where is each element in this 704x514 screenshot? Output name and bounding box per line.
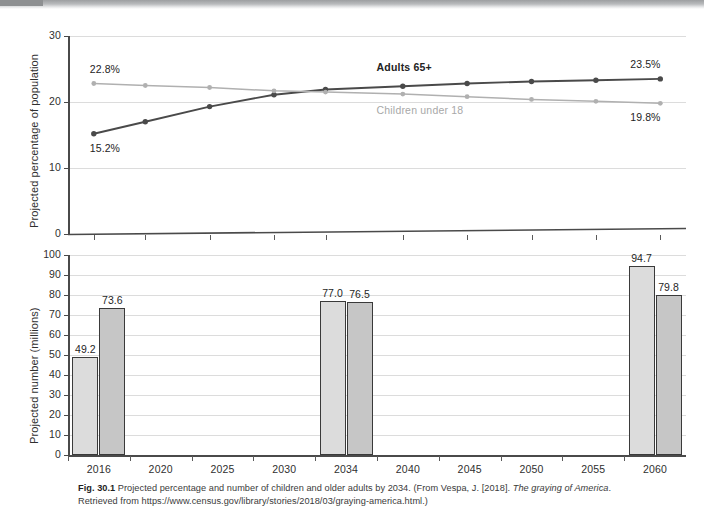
percentage-chart-data-point [272, 88, 277, 93]
number-chart-gridline [68, 435, 686, 436]
number-chart-x-tick-label: 2040 [378, 463, 438, 475]
percentage-chart-value-label: 19.8% [630, 111, 660, 123]
number-chart-bar-value-label: 49.2 [67, 343, 103, 355]
number-chart-x-tick-label: 2034 [316, 463, 376, 475]
percentage-chart-data-point [323, 90, 328, 95]
percentage-chart-series-label-adults: Adults 65+ [377, 61, 432, 73]
percentage-chart-value-label: 22.8% [90, 63, 120, 75]
number-chart-gridline [68, 375, 686, 376]
number-chart-gridline [68, 355, 686, 356]
figure-caption-source-title: The graying of America [513, 483, 609, 493]
number-chart-x-tick-mark [439, 456, 440, 461]
number-chart-gridline [68, 415, 686, 416]
number-chart-x-tick-mark [315, 456, 316, 461]
number-chart-x-tick-label: 2060 [625, 463, 685, 475]
percentage-chart-data-point [143, 119, 148, 124]
percentage-chart-data-point [91, 131, 96, 136]
number-chart-bar-value-label: 94.7 [624, 252, 660, 264]
number-chart-y-tick-label: 40 [28, 368, 61, 380]
number-chart-x-tick-mark [562, 456, 563, 461]
number-chart-x-tick-mark [130, 456, 131, 461]
figure-caption: Fig. 30.1 Projected percentage and numbe… [78, 482, 634, 507]
percentage-chart-data-point [658, 101, 663, 106]
number-chart-gridline [68, 275, 686, 276]
number-chart-y-tick-label: 60 [28, 328, 61, 340]
number-chart-x-tick-label: 2050 [502, 463, 562, 475]
number-chart-x-tick-mark [192, 456, 193, 461]
number-chart-bar-value-label: 73.6 [94, 294, 130, 306]
number-chart-bar-children [656, 295, 682, 455]
percentage-chart-value-label: 15.2% [90, 142, 120, 154]
figure-caption-text-1: Projected percentage and number of child… [118, 483, 510, 493]
number-chart-y-axis [68, 255, 70, 456]
percentage-chart-data-point [91, 81, 96, 86]
percentage-chart-data-point [464, 81, 469, 86]
number-chart-bar-value-label: 79.8 [651, 281, 687, 293]
percentage-chart-data-point [529, 97, 534, 102]
number-chart-y-tick-label: 100 [28, 248, 61, 260]
number-chart-x-tick-label: 2055 [563, 463, 623, 475]
number-chart-x-tick-mark [501, 456, 502, 461]
number-chart-bar-older-adults [72, 357, 98, 455]
number-chart-gridline [68, 315, 686, 316]
number-chart-x-tick-label: 2020 [131, 463, 191, 475]
number-chart-x-tick-label: 2045 [440, 463, 500, 475]
number-chart-x-tick-label: 2025 [193, 463, 253, 475]
percentage-chart-value-label: 23.5% [630, 58, 660, 70]
number-chart-y-tick-label: 30 [28, 388, 61, 400]
percentage-chart-data-point [594, 99, 599, 104]
figure-number: Fig. 30.1 [78, 483, 115, 493]
percentage-chart-data-point [207, 104, 212, 109]
percentage-chart-data-point [400, 92, 405, 97]
percentage-chart-x-axis [68, 229, 686, 235]
number-chart-y-tick-label: 0 [28, 448, 61, 460]
percentage-chart-data-point [207, 85, 212, 90]
number-chart-y-tick-label: 50 [28, 348, 61, 360]
percentage-chart-data-point [529, 79, 534, 84]
number-chart-x-tick-mark [253, 456, 254, 461]
number-chart-y-tick-label: 20 [28, 408, 61, 420]
percentage-chart-series-label-children: Children under 18 [377, 104, 464, 116]
number-chart-y-tick-label: 80 [28, 288, 61, 300]
number-chart-x-tick-mark [68, 456, 69, 461]
number-chart-y-tick-label: 10 [28, 428, 61, 440]
number-chart-y-tick-label: 70 [28, 308, 61, 320]
percentage-chart-data-point [593, 78, 598, 83]
number-chart-y-tick-label: 90 [28, 268, 61, 280]
number-chart-gridline [68, 255, 686, 256]
number-chart-x-tick-mark [624, 456, 625, 461]
number-chart-bar-children [347, 302, 373, 455]
percentage-chart-data-point [400, 84, 405, 89]
number-chart-bar-older-adults [629, 266, 655, 455]
number-chart-bar-value-label: 76.5 [342, 288, 378, 300]
percentage-chart-data-point [465, 94, 470, 99]
number-chart-gridline [68, 335, 686, 336]
number-chart-gridline [68, 395, 686, 396]
percentage-chart-data-point [143, 83, 148, 88]
percentage-chart-data-point [658, 76, 663, 81]
number-chart-bar-children [99, 308, 125, 455]
number-chart-x-tick-label: 2016 [69, 463, 129, 475]
number-chart-bar-older-adults [320, 301, 346, 455]
number-chart-x-tick-label: 2030 [254, 463, 314, 475]
number-chart-x-tick-mark [377, 456, 378, 461]
